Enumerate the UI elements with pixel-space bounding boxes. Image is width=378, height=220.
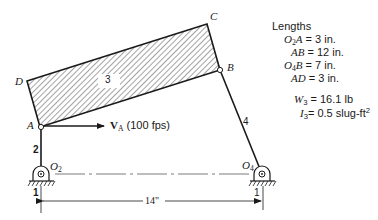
- link-number-4: 4: [243, 117, 249, 127]
- label-a: A: [27, 120, 34, 131]
- rocker-link-4: [220, 70, 262, 174]
- dimension-label: 14": [145, 196, 159, 206]
- link-number-1-right: 1: [254, 188, 260, 198]
- velocity-label: VA (100 fps): [110, 120, 170, 133]
- label-o4: O4: [242, 160, 254, 173]
- link-number-2: 2: [33, 145, 39, 155]
- link-number-1-left: 1: [33, 188, 39, 198]
- lengths-title: Lengths: [272, 20, 311, 32]
- label-o2: O2: [50, 161, 62, 174]
- joint-a: [38, 124, 43, 129]
- length-row-o4b: O4B = 7 in.: [284, 59, 336, 73]
- length-row-ab: AB = 12 in.: [291, 46, 344, 58]
- label-d: D: [15, 76, 23, 87]
- length-row-o2a: O2A = 3 in.: [284, 33, 336, 47]
- inertia-row: I3= 0.5 slug-ft2: [300, 106, 370, 121]
- length-row-ad: AD = 3 in.: [291, 72, 339, 84]
- label-c: C: [210, 11, 217, 22]
- joint-b: [217, 67, 222, 72]
- label-b: B: [227, 62, 234, 73]
- link-number-3: 3: [105, 75, 111, 85]
- weight-row: W3 = 16.1 lb: [294, 93, 353, 107]
- coupler-link-3: [27, 24, 220, 127]
